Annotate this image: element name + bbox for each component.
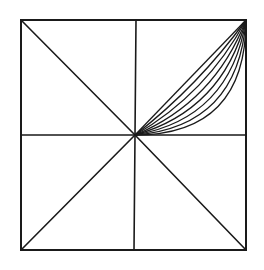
diagonal-bottom-left — [21, 135, 135, 250]
fan-curve — [135, 20, 246, 135]
curve-fan — [135, 20, 246, 135]
diagonal-bottom-right — [135, 135, 246, 250]
square-diagram — [0, 0, 264, 270]
diagonal-top-left — [21, 20, 135, 135]
